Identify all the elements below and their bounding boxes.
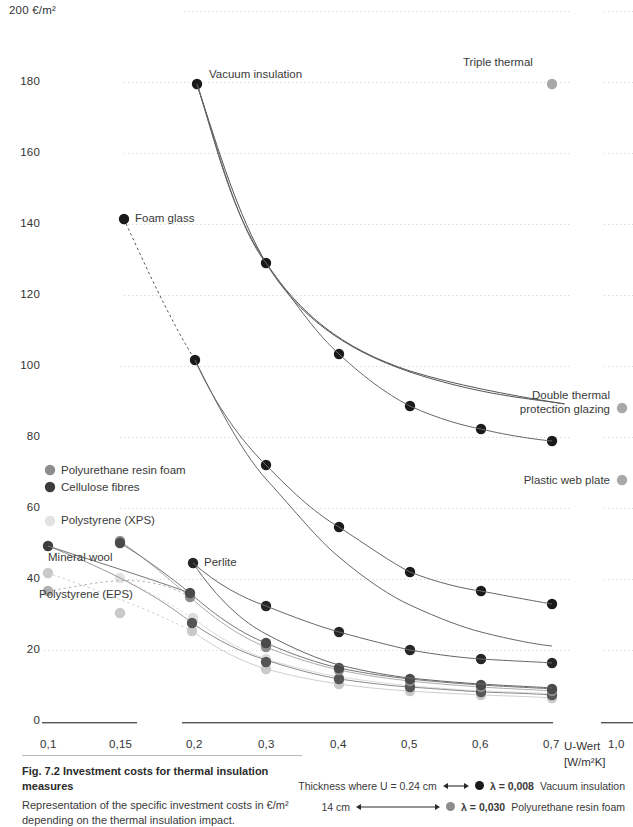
annotation-perlite: Perlite — [204, 555, 237, 570]
gridlines — [44, 11, 633, 651]
x-tick-0-6: 0,6 — [472, 738, 489, 750]
x-tick-0-15: 0,15 — [109, 738, 132, 750]
x-tick-0-3: 0,3 — [258, 738, 275, 750]
y-axis-title: 200 €/m² — [0, 4, 56, 16]
bottom-legend-dot-vacuum — [475, 781, 484, 790]
legend-polyurethane-resin-foam: Polyurethane resin foam — [61, 464, 186, 476]
x-tick-0-5: 0,5 — [401, 738, 418, 750]
x-tick-1-0: 1,0 — [608, 738, 625, 750]
annotation-plastic-web-plate: Plastic web plate — [455, 473, 610, 488]
y-tick-20: 20 — [0, 643, 40, 655]
annotation-double-thermal-glazing-line1: Double thermal — [455, 388, 610, 403]
y-tick-160: 160 — [0, 146, 40, 158]
y-tick-100: 100 — [0, 359, 40, 371]
x-tick-0-7: 0,7 — [543, 738, 560, 750]
legend-mineral-wool: Mineral wool — [48, 551, 113, 563]
annotation-foam-glass: Foam glass — [135, 211, 194, 226]
caption-description: Representation of the specific investmen… — [22, 798, 302, 827]
double-arrow-short-icon — [443, 780, 469, 792]
annotation-triple-thermal: Triple thermal — [463, 55, 533, 70]
bottom-legend-lambda-1: λ = 0,008 — [490, 780, 534, 792]
series-perlite — [188, 558, 557, 688]
series-foam-glass — [119, 214, 557, 646]
y-tick-80: 80 — [0, 430, 40, 442]
x-axis-line — [42, 722, 633, 723]
bottom-legend-row-polyurethane: 14 cm λ = 0,030 Polyurethane resin foam — [290, 796, 625, 817]
x-tick-0-2: 0,2 — [186, 738, 203, 750]
bottom-legend-row-vacuum: Thickness where U = 0.24 cm λ = 0,008 Va… — [290, 775, 625, 796]
plastic-web-plate-marker — [617, 475, 627, 485]
bottom-legend-material-1: Vacuum insulation — [540, 780, 625, 792]
series-mineral-wool — [43, 541, 557, 700]
bottom-legend: Thickness where U = 0.24 cm λ = 0,008 Va… — [290, 775, 625, 817]
y-tick-40: 40 — [0, 572, 40, 584]
caption-block: Fig. 7.2 Investment costs for thermal in… — [22, 764, 302, 827]
caption-title: Fig. 7.2 Investment costs for thermal in… — [22, 764, 302, 793]
x-axis-title-line1: U-Wert — [564, 738, 600, 754]
double-arrow-long-icon — [356, 801, 440, 813]
bottom-legend-thickness-label-1: Thickness where U = 0.24 cm — [298, 780, 437, 792]
x-tick-0-4: 0,4 — [330, 738, 347, 750]
annotation-markers — [547, 79, 627, 485]
bottom-legend-lambda-2: λ = 0,030 — [461, 801, 505, 813]
bottom-legend-thickness-label-2: 14 cm — [321, 801, 350, 813]
legend-polystyrene-eps: Polystyrene (EPS) — [39, 588, 133, 600]
y-tick-120: 120 — [0, 288, 40, 300]
x-tick-0-1: 0,1 — [40, 738, 57, 750]
y-tick-140: 140 — [0, 217, 40, 229]
annotation-double-thermal-glazing-line2: protection glazing — [455, 402, 610, 417]
double-thermal-glazing-marker — [617, 403, 627, 413]
y-tick-180: 180 — [0, 75, 40, 87]
legend-polystyrene-xps: Polystyrene (XPS) — [61, 514, 155, 526]
bottom-legend-dot-polyurethane — [446, 802, 455, 811]
bottom-legend-material-2: Polyurethane resin foam — [511, 801, 625, 813]
y-tick-60: 60 — [0, 501, 40, 513]
caption-divider — [22, 755, 302, 756]
x-axis-title-line2: [W/m²K] — [564, 754, 606, 770]
y-tick-0: 0 — [0, 714, 40, 726]
triple-thermal-marker — [547, 79, 557, 89]
legend-cellulose-fibres: Cellulose fibres — [61, 481, 140, 493]
annotation-vacuum-insulation: Vacuum insulation — [209, 67, 302, 82]
